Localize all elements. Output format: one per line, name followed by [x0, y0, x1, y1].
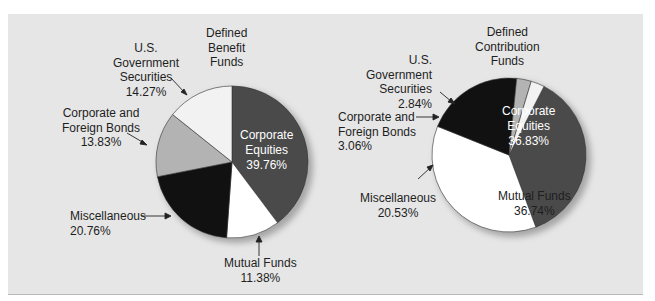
title-defined-contribution: Defined Contribution Funds — [475, 25, 540, 69]
label-right-mutual: Mutual Funds 36.74% — [498, 189, 571, 219]
label-left-bonds: Corporate and Foreign Bonds 13.83% — [62, 106, 140, 150]
label-left-us-gov: U.S. Government Securities 14.27% — [113, 41, 179, 99]
pie-charts — [0, 0, 655, 301]
label-right-equities: Corporate Equities 36.83% — [502, 104, 555, 149]
title-defined-benefit: Defined Benefit Funds — [206, 26, 247, 70]
label-right-bonds: Corporate and Foreign Bonds 3.06% — [338, 110, 416, 154]
label-left-equities: Corporate Equities 39.76% — [240, 128, 293, 173]
label-left-mutual: Mutual Funds 11.38% — [224, 256, 297, 285]
label-left-misc: Miscellaneous 20.76% — [70, 209, 146, 238]
label-right-us-gov: U.S. Government Securities 2.84% — [366, 53, 432, 111]
label-right-misc: Miscellaneous 20.53% — [360, 191, 436, 220]
